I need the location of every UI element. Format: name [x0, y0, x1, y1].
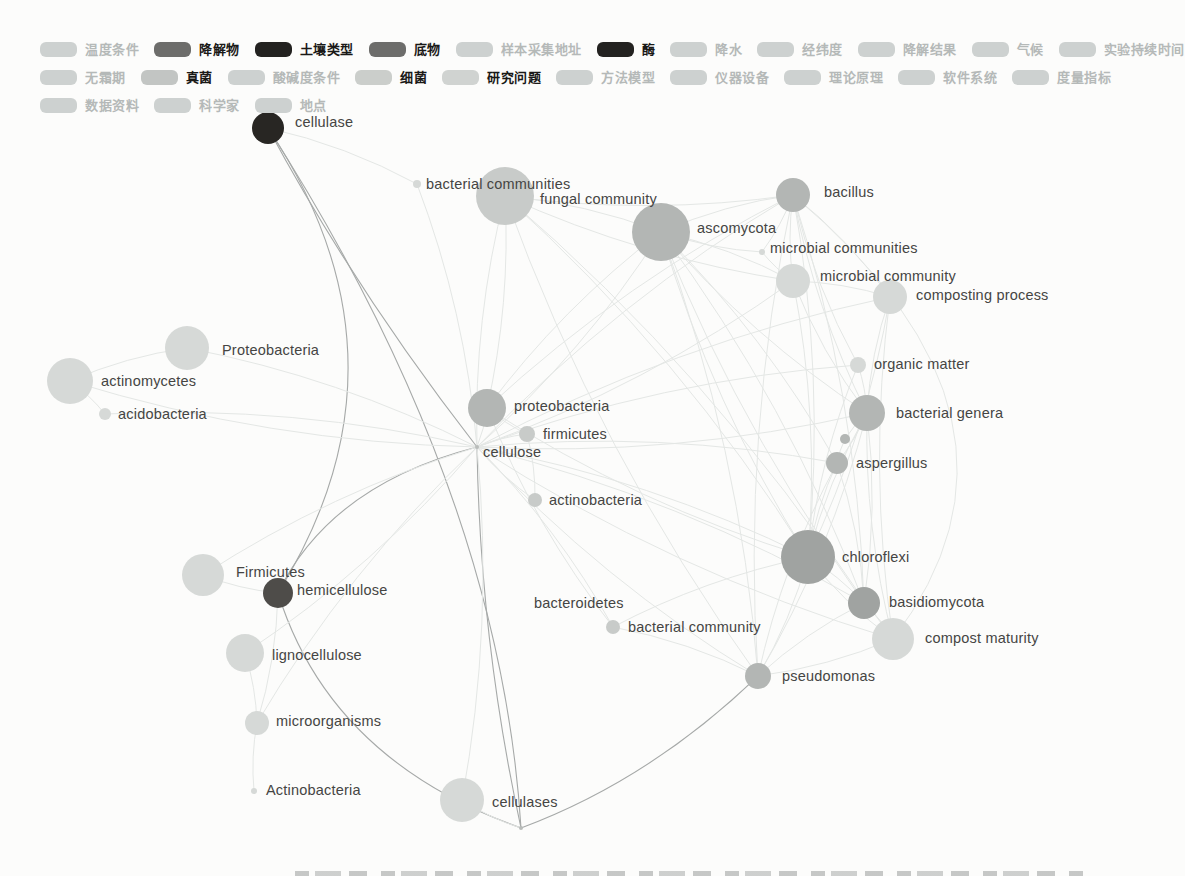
graph-node-pseudo[interactable] [745, 663, 771, 689]
legend-swatch-icon [154, 42, 191, 57]
node-label-bacillus[interactable]: bacillus [824, 183, 874, 201]
graph-node-micos[interactable] [759, 249, 765, 255]
node-label-microorg[interactable]: microorganisms [276, 712, 381, 730]
graph-edge [187, 348, 477, 447]
node-label-pseudo[interactable]: pseudomonas [782, 667, 875, 685]
graph-node-basidio[interactable] [848, 587, 880, 619]
node-label-Actinob_dot[interactable]: Actinobacteria [266, 781, 361, 799]
legend-item-仪器设备[interactable]: 仪器设备 [670, 70, 769, 85]
legend-item-数据资料[interactable]: 数据资料 [40, 98, 139, 113]
node-label-bacteroid[interactable]: bacteroidetes [534, 594, 624, 612]
legend-item-label: 数据资料 [85, 98, 139, 113]
legend-item-酶[interactable]: 酶 [597, 42, 656, 57]
legend-item-经纬度[interactable]: 经纬度 [757, 42, 843, 57]
node-label-compmat[interactable]: compost maturity [925, 629, 1039, 647]
legend-item-研究问题[interactable]: 研究问题 [442, 70, 541, 85]
legend-item-label: 软件系统 [943, 70, 997, 85]
graph-node-cellulases[interactable] [440, 778, 484, 822]
node-label-actinob_s[interactable]: actinobacteria [549, 491, 642, 509]
graph-node-cellulose[interactable] [475, 445, 479, 449]
legend-item-真菌[interactable]: 真菌 [141, 70, 213, 85]
node-label-bgenera[interactable]: bacterial genera [896, 404, 1003, 422]
legend-item-科学家[interactable]: 科学家 [154, 98, 240, 113]
legend-item-label: 气候 [1017, 42, 1044, 57]
graph-node-microorg[interactable] [245, 711, 269, 735]
node-label-asco[interactable]: ascomycota [697, 219, 776, 237]
graph-node-acido[interactable] [99, 408, 111, 420]
legend-item-降水[interactable]: 降水 [670, 42, 742, 57]
graph-node-ligno[interactable] [226, 634, 264, 672]
node-label-Firmicutes_l[interactable]: Firmicutes [236, 563, 305, 581]
graph-node-Actinob_dot[interactable] [251, 788, 257, 794]
legend-item-地点[interactable]: 地点 [255, 98, 327, 113]
node-label-proteo_c[interactable]: proteobacteria [514, 397, 610, 415]
node-label-fungal[interactable]: fungal community [540, 190, 657, 208]
node-label-micos[interactable]: microbial communities [770, 239, 918, 257]
node-label-actino[interactable]: actinomycetes [101, 372, 196, 390]
graph-node-Firmicutes_l[interactable] [182, 554, 224, 596]
node-label-basidio[interactable]: basidiomycota [889, 593, 984, 611]
graph-node-asperg[interactable] [826, 452, 848, 474]
graph-node-bgenera[interactable] [849, 395, 885, 431]
graph-node-bcomm[interactable] [606, 620, 620, 634]
legend-item-label: 无霜期 [85, 70, 126, 85]
graph-edge [661, 232, 758, 676]
graph-node-bc_dot[interactable] [413, 180, 421, 188]
graph-node-actinob_s[interactable] [528, 493, 542, 507]
legend-swatch-icon [1059, 42, 1096, 57]
legend-item-降解物[interactable]: 降解物 [154, 42, 240, 57]
graph-node-mico[interactable] [776, 264, 810, 298]
node-label-organic[interactable]: organic matter [874, 355, 969, 373]
legend-item-气候[interactable]: 气候 [972, 42, 1044, 57]
node-label-ligno[interactable]: lignocellulose [272, 646, 362, 664]
graph-node-firm_s[interactable] [519, 426, 535, 442]
legend-swatch-icon [898, 70, 935, 85]
node-label-cellulose[interactable]: cellulose [483, 443, 541, 461]
graph-node-proteo_c[interactable] [468, 389, 506, 427]
node-label-bcomm[interactable]: bacterial community [628, 618, 761, 636]
node-label-firm_s[interactable]: firmicutes [543, 425, 607, 443]
graph-node-actino[interactable] [47, 358, 93, 404]
node-label-asperg[interactable]: aspergillus [856, 454, 928, 472]
legend-item-软件系统[interactable]: 软件系统 [898, 70, 997, 85]
graph-node-hemi[interactable] [263, 578, 293, 608]
legend-item-实验持续时间[interactable]: 实验持续时间 [1059, 42, 1185, 57]
graph-node-bacillus[interactable] [776, 178, 810, 212]
legend-item-度量指标[interactable]: 度量指标 [1012, 70, 1111, 85]
legend-swatch-icon [1012, 70, 1049, 85]
legend-item-label: 经纬度 [802, 42, 843, 57]
graph-node-asco[interactable] [632, 203, 690, 261]
node-label-Proteo[interactable]: Proteobacteria [222, 341, 319, 359]
node-label-hemi[interactable]: hemicellulose [297, 581, 387, 599]
graph-node-compmat[interactable] [872, 618, 914, 660]
legend-item-label: 地点 [300, 98, 327, 113]
legend-item-细菌[interactable]: 细菌 [355, 70, 427, 85]
node-label-compproc[interactable]: composting process [916, 286, 1049, 304]
legend-swatch-icon [228, 70, 265, 85]
node-label-cellulase[interactable]: cellulase [295, 113, 353, 131]
legend-item-样本采集地址[interactable]: 样本采集地址 [456, 42, 582, 57]
legend-item-降解结果[interactable]: 降解结果 [858, 42, 957, 57]
graph-node-chloro[interactable] [781, 530, 835, 584]
legend-item-label: 实验持续时间 [1104, 42, 1185, 57]
graph-node-organic[interactable] [850, 357, 866, 373]
graph-node-Proteo[interactable] [165, 326, 209, 370]
legend-item-底物[interactable]: 底物 [369, 42, 441, 57]
node-label-acido[interactable]: acidobacteria [118, 405, 207, 423]
legend-item-理论原理[interactable]: 理论原理 [784, 70, 883, 85]
legend-item-label: 底物 [414, 42, 441, 57]
legend-swatch-icon [154, 98, 191, 113]
graph-node-compproc[interactable] [873, 280, 907, 314]
node-label-cellulases[interactable]: cellulases [492, 793, 558, 811]
graph-node-bottomhub[interactable] [519, 826, 523, 830]
legend-item-温度条件[interactable]: 温度条件 [40, 42, 139, 57]
node-label-chloro[interactable]: chloroflexi [842, 548, 909, 566]
node-label-mico[interactable]: microbial community [820, 267, 956, 285]
graph-edge [268, 128, 417, 184]
legend-item-无霜期[interactable]: 无霜期 [40, 70, 126, 85]
legend-item-土壤类型[interactable]: 土壤类型 [255, 42, 354, 57]
legend-item-酸碱度条件[interactable]: 酸碱度条件 [228, 70, 341, 85]
legend-item-方法模型[interactable]: 方法模型 [556, 70, 655, 85]
graph-node-dot_r[interactable] [840, 434, 850, 444]
